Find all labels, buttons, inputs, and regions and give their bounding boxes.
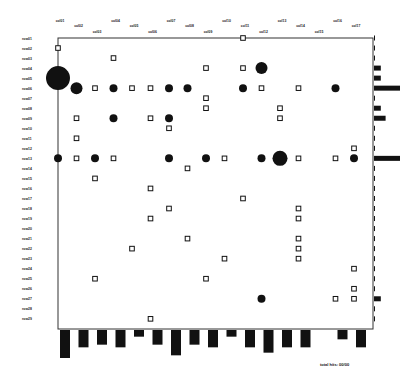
column-label: col02 [74, 24, 83, 28]
row-label: row15 [22, 177, 32, 181]
row-label: row25 [22, 277, 32, 281]
open-square-point [130, 246, 135, 251]
column-total-bar [116, 330, 126, 347]
plot-points [46, 36, 358, 321]
open-square-point [296, 216, 301, 221]
column-total-bar [338, 330, 348, 339]
row-total-bar [374, 126, 375, 131]
column-total-bar [97, 330, 107, 345]
row-total-bar [374, 226, 375, 231]
row-label: row03 [22, 57, 32, 61]
column-label: col16 [333, 19, 342, 23]
row-label: row11 [22, 137, 32, 141]
filled-circle-point [110, 84, 118, 92]
filled-circle-point [258, 154, 266, 162]
open-square-point [148, 317, 153, 322]
open-square-point [56, 46, 61, 51]
total-hits-label: total hits: 00/00 [320, 362, 350, 367]
open-square-point [130, 86, 135, 91]
row-total-bar [374, 266, 375, 271]
row-label: row14 [22, 167, 32, 171]
open-square-point [204, 66, 209, 71]
row-total-bars [374, 36, 400, 322]
column-label: col15 [315, 30, 324, 34]
row-total-bar [374, 46, 375, 51]
row-label: row02 [22, 47, 32, 51]
open-square-point [296, 86, 301, 91]
row-label: row23 [22, 257, 32, 261]
row-label: row06 [22, 87, 32, 91]
row-total-bar [374, 196, 375, 201]
column-label: col12 [259, 30, 268, 34]
filled-circle-point [46, 66, 70, 90]
plot-frame [58, 38, 373, 329]
row-label: row29 [22, 317, 32, 321]
column-label: col01 [56, 19, 65, 23]
filled-circle-point [256, 62, 268, 74]
filled-circle-point [165, 154, 173, 162]
open-square-point [111, 156, 116, 161]
column-label: col17 [352, 24, 361, 28]
row-label: row27 [22, 297, 32, 301]
row-total-bar [374, 136, 375, 141]
row-total-bar [374, 146, 375, 151]
row-label: row05 [22, 77, 32, 81]
open-square-point [148, 186, 153, 191]
open-square-point [74, 156, 79, 161]
row-label: row21 [22, 237, 32, 241]
column-label: col08 [185, 24, 194, 28]
row-total-bar [374, 236, 375, 241]
filled-circle-point [332, 84, 340, 92]
column-label: col13 [278, 19, 287, 23]
open-square-point [296, 246, 301, 251]
open-square-point [296, 256, 301, 261]
column-labels: col01col02col03col04col05col06col07col08… [56, 19, 361, 34]
open-square-point [259, 86, 264, 91]
column-total-bar [171, 330, 181, 355]
column-total-bar [245, 330, 255, 347]
open-square-point [241, 36, 246, 41]
filled-circle-point [165, 84, 173, 92]
filled-circle-point [239, 84, 247, 92]
row-label: row13 [22, 157, 32, 161]
row-total-bar [374, 186, 375, 191]
column-total-bar [79, 330, 89, 347]
row-label: row10 [22, 127, 32, 131]
open-square-point [278, 106, 283, 111]
filled-circle-point [54, 154, 62, 162]
open-square-point [352, 286, 357, 291]
row-label: row08 [22, 107, 32, 111]
open-square-point [296, 236, 301, 241]
row-total-bar [374, 176, 375, 181]
open-square-point [352, 296, 357, 301]
row-label: row16 [22, 187, 32, 191]
column-label: col11 [241, 24, 250, 28]
row-total-bar [374, 106, 381, 111]
open-square-point [352, 146, 357, 151]
open-square-point [93, 276, 98, 281]
dot-matrix-chart: col01col02col03col04col05col06col07col08… [0, 0, 418, 383]
column-label: col07 [167, 19, 176, 23]
open-square-point [204, 96, 209, 101]
row-label: row09 [22, 117, 32, 121]
column-label: col05 [130, 24, 139, 28]
row-label: row07 [22, 97, 32, 101]
column-label: col06 [148, 30, 157, 34]
filled-circle-point [110, 114, 118, 122]
row-total-bar [374, 166, 375, 171]
row-label: row28 [22, 307, 32, 311]
filled-circle-point [165, 114, 173, 122]
row-total-bar [374, 36, 375, 41]
open-square-point [241, 66, 246, 71]
column-total-bar [60, 330, 70, 358]
filled-circle-point [273, 151, 288, 166]
column-total-bar [356, 330, 366, 347]
open-square-point [204, 276, 209, 281]
column-total-bar [208, 330, 218, 347]
row-total-bar [374, 286, 375, 291]
row-total-bar [374, 216, 375, 221]
row-label: row22 [22, 247, 32, 251]
filled-circle-point [350, 154, 358, 162]
row-total-bar [374, 316, 375, 321]
row-total-bar [374, 116, 386, 121]
